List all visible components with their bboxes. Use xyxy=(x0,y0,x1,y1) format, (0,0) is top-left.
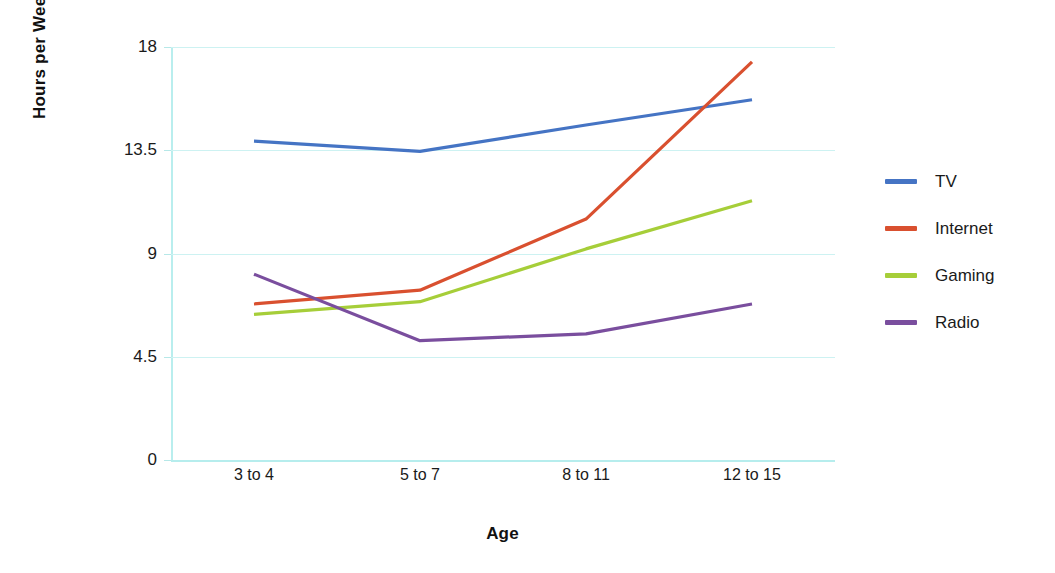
x-axis-title: Age xyxy=(170,524,835,544)
y-tick-label: 13.5 xyxy=(124,140,157,160)
legend-item-internet[interactable]: Internet xyxy=(885,205,995,252)
plot-area: 04.5913.518 xyxy=(171,47,835,460)
legend-item-radio[interactable]: Radio xyxy=(885,299,995,346)
x-tick-label: 12 to 15 xyxy=(723,466,781,484)
y-tick-label: 9 xyxy=(148,244,157,264)
y-axis-title: Hours per Week xyxy=(26,0,54,168)
legend-swatch-icon xyxy=(885,320,917,325)
y-axis-tick xyxy=(164,254,171,255)
y-axis-tick xyxy=(164,47,171,48)
legend-swatch-icon xyxy=(885,273,917,278)
x-tick-label: 5 to 7 xyxy=(400,466,440,484)
y-tick-label: 4.5 xyxy=(133,347,157,367)
legend-label: Internet xyxy=(935,219,993,239)
legend-label: TV xyxy=(935,172,957,192)
legend-item-gaming[interactable]: Gaming xyxy=(885,252,995,299)
line-chart: Hours per Week 04.5913.518 3 to 45 to 78… xyxy=(0,0,1055,573)
legend-swatch-icon xyxy=(885,179,917,184)
y-axis-tick xyxy=(164,150,171,151)
x-tick-label: 8 to 11 xyxy=(562,466,610,484)
chart-legend: TVInternetGamingRadio xyxy=(885,158,995,346)
legend-label: Gaming xyxy=(935,266,995,286)
series-lines xyxy=(171,47,835,460)
y-axis-tick xyxy=(164,357,171,358)
series-line-tv xyxy=(254,100,752,152)
legend-swatch-icon xyxy=(885,226,917,231)
legend-item-tv[interactable]: TV xyxy=(885,158,995,205)
y-tick-label: 18 xyxy=(138,37,157,57)
legend-label: Radio xyxy=(935,313,979,333)
x-tick-label: 3 to 4 xyxy=(234,466,274,484)
gridline xyxy=(171,460,835,462)
series-line-internet xyxy=(254,62,752,304)
y-axis-tick xyxy=(164,460,171,461)
y-tick-label: 0 xyxy=(148,450,157,470)
